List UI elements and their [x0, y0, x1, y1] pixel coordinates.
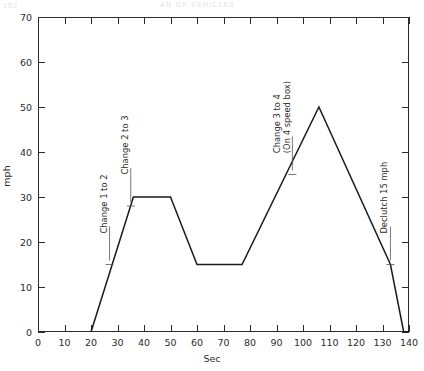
annotation-text-change-1-to-2-line1: Change 1 to 2: [100, 174, 110, 233]
annotation-change-1-to-2: Change 1 to 2: [100, 174, 110, 233]
annotation-text-change-3-to-4-line2: (On 4 speed box): [283, 80, 293, 152]
annotation-declutch-15-mph: Declutch 15 mph: [381, 161, 391, 233]
annotation-leader-lines: [106, 137, 395, 265]
series-vehicle-speed-line: [91, 107, 409, 332]
speed-vs-time-chart: 0102030405060708090100110120130140010203…: [0, 0, 424, 371]
annotation-change-3-to-4: Change 3 to 4(On 4 speed box): [273, 80, 292, 152]
data-line-layer: [0, 0, 424, 371]
annotation-change-2-to-3: Change 2 to 3: [121, 115, 131, 174]
y-axis-title: mph: [1, 165, 12, 186]
x-axis-title: Sec: [0, 353, 424, 364]
annotation-text-declutch-15-mph-line1: Declutch 15 mph: [381, 161, 391, 233]
annotation-text-change-2-to-3-line1: Change 2 to 3: [121, 115, 131, 174]
